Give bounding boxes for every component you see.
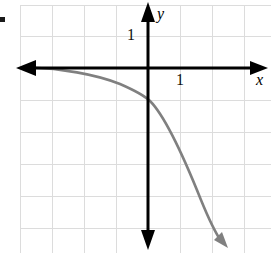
x-axis	[16, 60, 268, 76]
x-axis-label: x	[256, 72, 263, 88]
x-axis-left-arrowhead	[16, 60, 36, 76]
y-tick-label-one: 1	[127, 27, 135, 43]
y-axis-bottom-arrowhead	[141, 230, 155, 250]
x-tick-label-one: 1	[176, 72, 184, 88]
function-curve	[30, 68, 228, 249]
coordinate-plane	[0, 0, 271, 253]
graph-figure: y x 1 1	[0, 0, 271, 253]
y-axis-label: y	[157, 6, 164, 22]
curve-path	[30, 68, 221, 242]
grid-lines	[20, 5, 271, 253]
y-axis	[141, 2, 155, 250]
